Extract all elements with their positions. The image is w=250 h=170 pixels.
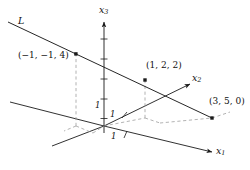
point-label-c: (3, 5, 0) bbox=[209, 97, 245, 106]
x2-axis-label: x2 bbox=[192, 73, 202, 84]
point-marker-b bbox=[143, 78, 146, 81]
unit-label-x2: 1 bbox=[110, 110, 115, 119]
point-marker-c bbox=[210, 116, 213, 119]
x3-axis-label: x3 bbox=[99, 5, 109, 16]
x1-axis-label: x1 bbox=[216, 146, 226, 157]
x3-axis-line bbox=[101, 22, 108, 133]
unit-label-x3: 1 bbox=[95, 101, 100, 110]
point-label-b: (1, 2, 2) bbox=[146, 61, 182, 70]
point-marker-a bbox=[74, 52, 77, 55]
coordinate-figure: x3 x2 x1 L 1 1 1 (−1, −1, 4) (1, 2, 2) (… bbox=[0, 0, 250, 170]
point-label-a: (−1, −1, 4) bbox=[18, 51, 69, 60]
x1-axis-line bbox=[52, 126, 212, 152]
unit-label-x1: 1 bbox=[111, 132, 116, 141]
line-L bbox=[8, 22, 212, 118]
figure-canvas bbox=[0, 0, 250, 170]
line-label-L: L bbox=[18, 16, 24, 26]
